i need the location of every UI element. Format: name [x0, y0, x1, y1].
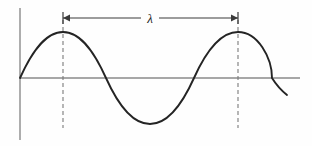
- wave-diagram-canvas: [0, 0, 312, 146]
- wave-diagram-figure: λ: [0, 0, 312, 146]
- dimension-arrowhead-right-icon: [231, 15, 238, 22]
- dimension-arrowhead-left-icon: [63, 15, 70, 22]
- wavelength-symbol-label: λ: [147, 12, 153, 25]
